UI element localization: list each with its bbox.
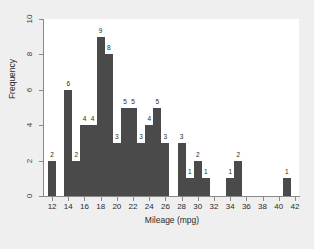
bar-value-label: 8 bbox=[99, 45, 119, 52]
bar-value-label: 3 bbox=[172, 134, 192, 141]
x-tick-mark bbox=[84, 197, 85, 201]
x-tick-mark bbox=[68, 197, 69, 201]
histogram-bar bbox=[226, 178, 234, 196]
bar-value-label: 6 bbox=[58, 81, 78, 88]
histogram-bar bbox=[283, 178, 291, 196]
bar-value-label: 2 bbox=[42, 152, 62, 159]
x-tick-mark bbox=[149, 197, 150, 201]
x-tick-mark bbox=[165, 197, 166, 201]
histogram-bar bbox=[194, 161, 202, 196]
bar-value-label: 2 bbox=[188, 152, 208, 159]
bar-value-label: 1 bbox=[277, 169, 297, 176]
histogram-bar bbox=[186, 178, 194, 196]
histogram-bar bbox=[137, 143, 145, 196]
x-tick-mark bbox=[101, 197, 102, 201]
x-tick-mark bbox=[52, 197, 53, 201]
y-tick-mark bbox=[39, 19, 44, 20]
x-tick-mark bbox=[279, 197, 280, 201]
y-tick-mark bbox=[39, 161, 44, 162]
y-tick-mark bbox=[39, 54, 44, 55]
histogram-bar bbox=[145, 125, 153, 196]
bar-value-label: 9 bbox=[91, 28, 111, 35]
histogram-bar bbox=[129, 108, 137, 197]
y-axis-line bbox=[43, 19, 44, 197]
x-tick-mark bbox=[182, 197, 183, 201]
x-tick-mark bbox=[246, 197, 247, 201]
x-tick-mark bbox=[198, 197, 199, 201]
histogram-bar bbox=[161, 143, 169, 196]
x-axis-line bbox=[43, 196, 300, 197]
x-tick-mark bbox=[230, 197, 231, 201]
histogram-bar bbox=[97, 37, 105, 196]
x-tick-label: 42 bbox=[284, 202, 306, 212]
histogram-bar bbox=[48, 161, 56, 196]
histogram-bar bbox=[72, 161, 80, 196]
y-tick-mark bbox=[39, 90, 44, 91]
x-tick-mark bbox=[133, 197, 134, 201]
y-tick-label: 0 bbox=[24, 190, 36, 202]
bar-value-label: 5 bbox=[147, 99, 167, 106]
x-tick-mark bbox=[263, 197, 264, 201]
y-tick-mark bbox=[39, 125, 44, 126]
x-tick-mark bbox=[117, 197, 118, 201]
bar-value-label: 5 bbox=[123, 99, 143, 106]
y-tick-label: 8 bbox=[24, 48, 36, 60]
histogram-bar bbox=[202, 178, 210, 196]
bar-value-label: 2 bbox=[228, 152, 248, 159]
histogram-bar bbox=[64, 90, 72, 196]
histogram-bar bbox=[234, 161, 242, 196]
y-tick-label: 4 bbox=[24, 119, 36, 131]
histogram-bar bbox=[153, 108, 161, 197]
x-tick-mark bbox=[295, 197, 296, 201]
bar-value-label: 1 bbox=[196, 169, 216, 176]
histogram-bar bbox=[80, 125, 88, 196]
histogram-bar bbox=[121, 108, 129, 197]
x-tick-mark bbox=[214, 197, 215, 201]
histogram-figure: 0246810 12141618202224262830323436384042… bbox=[0, 0, 314, 249]
y-tick-mark bbox=[39, 196, 44, 197]
y-axis-title: Frequency bbox=[7, 43, 17, 115]
x-axis-title: Mileage (mpg) bbox=[44, 215, 300, 225]
histogram-bar bbox=[113, 143, 121, 196]
histogram-bar bbox=[89, 125, 97, 196]
y-tick-label: 2 bbox=[24, 155, 36, 167]
y-tick-label: 6 bbox=[24, 84, 36, 96]
histogram-bar bbox=[105, 54, 113, 196]
y-tick-label: 10 bbox=[24, 13, 36, 25]
